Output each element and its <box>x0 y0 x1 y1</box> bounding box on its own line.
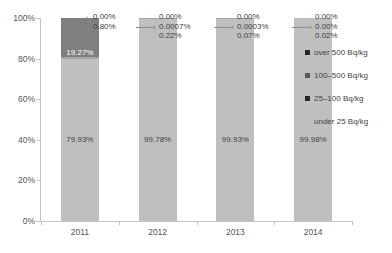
x-axis-tick-label-2012: 2012 <box>119 226 197 240</box>
legend-item-under-25[interactable]: under 25 Bq/kg <box>305 113 391 129</box>
callout-bracket-2012: ‹ <box>153 23 156 32</box>
callout-line-over-500-2012: 0.00% <box>159 12 191 22</box>
callout-line-over-500-2011: 0.00% <box>93 12 116 22</box>
y-axis-tick-mark <box>36 180 40 181</box>
legend-swatch-icon-under-25 <box>305 119 310 124</box>
bar-stack-2013[interactable]: 99.93% <box>216 18 254 221</box>
legend-item-100-500[interactable]: 100–500 Bq/kg <box>305 67 391 83</box>
callout-line-25-100-2012: 0.22% <box>159 31 191 41</box>
bar-segment-under-25[interactable] <box>216 18 254 221</box>
legend-swatch-icon-100-500 <box>305 73 310 78</box>
bar-value-label-under-25-2012: 99.78% <box>144 135 171 144</box>
y-axis-tick-label: 0% <box>23 217 35 226</box>
y-axis: 0% 20% 40% 60% 80% 100% <box>2 18 40 220</box>
y-axis-tick-label: 60% <box>18 95 35 104</box>
legend-label-100-500: 100–500 Bq/kg <box>314 71 368 80</box>
y-axis-tick-label: 80% <box>18 54 35 63</box>
y-axis-tick-mark <box>36 59 40 60</box>
callout-line-25-100-2014: 0.02% <box>315 31 338 41</box>
legend: over 500 Bq/kg 100–500 Bq/kg 25–100 Bq/k… <box>305 44 391 136</box>
legend-swatch-icon-25-100 <box>305 96 310 101</box>
stacked-bar-chart: 0% 20% 40% 60% 80% 100% 19.27% 79.93% <box>0 0 392 253</box>
callout-2011: 0.00% 0.80% <box>93 12 116 31</box>
bar-slot-2012: 99.78% <box>119 18 197 221</box>
legend-swatch-icon-over-500 <box>305 50 310 55</box>
callout-line-over-500-2013: 0.00% <box>237 12 269 22</box>
bar-slot-2013: 99.93% <box>197 18 275 221</box>
x-axis-tick-mark <box>197 221 198 225</box>
bar-slot-2011: 19.27% 79.93% <box>41 18 119 221</box>
x-axis-tick-label-2014: 2014 <box>274 226 352 240</box>
x-axis-tick-label-2013: 2013 <box>197 226 275 240</box>
y-axis-tick-mark <box>36 99 40 100</box>
callout-bracket-2014: ‹ <box>309 23 312 32</box>
legend-label-under-25: under 25 Bq/kg <box>314 117 368 126</box>
bar-segment-25-100[interactable] <box>61 57 99 59</box>
callout-2013: 0.00% 0.0003% 0.07% <box>237 12 269 41</box>
x-axis-tick-mark <box>41 221 42 225</box>
bar-stack-2011[interactable]: 19.27% 79.93% <box>61 18 99 221</box>
bar-value-label-100-500-2011: 19.27% <box>66 48 93 57</box>
bar-value-label-under-25-2014: 99.98% <box>300 135 327 144</box>
legend-label-over-500: over 500 Bq/kg <box>314 48 368 57</box>
legend-item-25-100[interactable]: 25–100 Bq/kg <box>305 90 391 106</box>
bar-value-label-under-25-2011: 79.93% <box>66 135 93 144</box>
legend-item-over-500[interactable]: over 500 Bq/kg <box>305 44 391 60</box>
x-axis: 2011 2012 2013 2014 <box>41 226 352 240</box>
callout-line-100-500-2012: 0.0007% <box>159 22 191 32</box>
callout-line-100-500-2013: 0.0003% <box>237 22 269 32</box>
x-axis-tick-label-2011: 2011 <box>41 226 119 240</box>
callout-line-over-500-2014: 0.00% <box>315 12 338 22</box>
x-axis-tick-mark <box>274 221 275 225</box>
y-axis-tick-mark <box>36 140 40 141</box>
x-axis-tick-mark <box>352 221 353 225</box>
y-axis-tick-label: 20% <box>18 176 35 185</box>
callout-bracket-2013: ‹ <box>231 23 234 32</box>
y-axis-tick-mark <box>36 18 40 19</box>
bar-stack-2012[interactable]: 99.78% <box>139 18 177 221</box>
legend-label-25-100: 25–100 Bq/kg <box>314 94 363 103</box>
callout-2012: 0.00% 0.0007% 0.22% <box>159 12 191 41</box>
callout-line-25-100-2013: 0.07% <box>237 31 269 41</box>
y-axis-tick-label: 100% <box>13 14 35 23</box>
x-axis-tick-mark <box>119 221 120 225</box>
bar-value-label-under-25-2013: 99.93% <box>222 135 249 144</box>
callout-2014: 0.00% 0.00% 0.02% <box>315 12 338 41</box>
callout-line-100-500-2014: 0.00% <box>315 22 338 32</box>
bar-segment-under-25[interactable] <box>139 18 177 221</box>
callout-line-25-100-2011: 0.80% <box>93 22 116 32</box>
y-axis-tick-label: 40% <box>18 135 35 144</box>
